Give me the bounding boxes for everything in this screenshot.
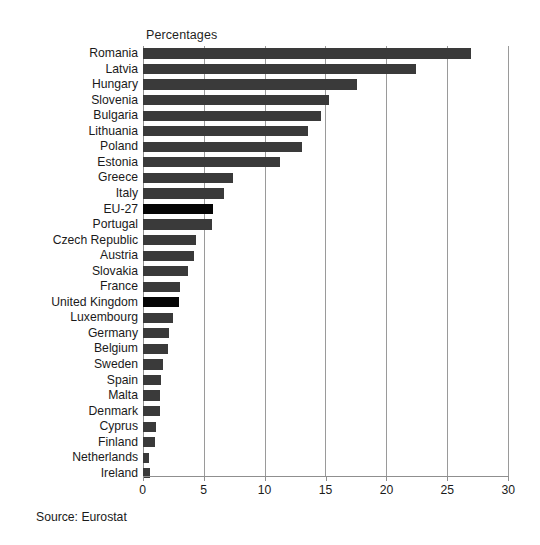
bar-luxembourg [143,313,173,323]
bar-row [143,62,509,78]
x-tick-label-30: 30 [502,483,516,497]
category-label-spain: Spain [0,373,138,389]
bar-row [143,155,509,171]
category-label-lithuania: Lithuania [0,124,138,140]
bar-poland [143,142,303,152]
category-axis-labels: RomaniaLatviaHungarySloveniaBulgariaLith… [0,46,138,476]
bar-sweden [143,359,164,369]
bar-row [143,419,509,435]
bar-row [143,186,509,202]
bar-italy [143,188,225,198]
x-tickmark-5 [204,476,205,481]
bar-finland [143,437,155,447]
bar-malta [143,390,160,400]
x-tickmark-15 [326,476,327,481]
bar-row [143,450,509,466]
category-label-eu-27: EU-27 [0,202,138,218]
x-tickmark-0 [143,476,144,481]
category-label-malta: Malta [0,388,138,404]
bar-hungary [143,79,357,89]
category-label-portugal: Portugal [0,217,138,233]
bar-united-kingdom [143,297,180,307]
category-label-greece: Greece [0,170,138,186]
bar-row [143,295,509,311]
bar-row [143,341,509,357]
chart-figure: Percentages RomaniaLatviaHungarySlovenia… [0,0,540,545]
category-label-luxembourg: Luxembourg [0,310,138,326]
bar-row [143,139,509,155]
plot-area [143,46,509,476]
category-label-cyprus: Cyprus [0,419,138,435]
x-tick-label-25: 25 [441,483,455,497]
bar-france [143,282,181,292]
bar-slovenia [143,95,329,105]
category-label-latvia: Latvia [0,62,138,78]
x-tick-label-10: 10 [258,483,272,497]
bar-row [143,170,509,186]
bar-row [143,202,509,218]
bar-row [143,233,509,249]
bar-czech-republic [143,235,197,245]
bar-bulgaria [143,111,321,121]
bar-netherlands [143,453,149,463]
bar-estonia [143,157,281,167]
bar-row [143,108,509,124]
category-label-netherlands: Netherlands [0,450,138,466]
bar-row [143,46,509,62]
bar-row [143,404,509,420]
category-label-slovenia: Slovenia [0,93,138,109]
category-label-slovakia: Slovakia [0,264,138,280]
gridline-30 [508,46,509,476]
bar-romania [143,48,471,58]
bar-row [143,435,509,451]
category-label-france: France [0,279,138,295]
bar-row [143,124,509,140]
x-tickmark-20 [386,476,387,481]
bar-denmark [143,406,160,416]
bar-austria [143,251,194,261]
x-axis-tick-labels: 051015202530 [0,483,540,503]
bar-row [143,373,509,389]
category-label-italy: Italy [0,186,138,202]
category-label-poland: Poland [0,139,138,155]
bar-belgium [143,344,169,354]
category-label-united-kingdom: United Kingdom [0,295,138,311]
bar-row [143,388,509,404]
source-note: Source: Eurostat [36,510,127,524]
bar-row [143,310,509,326]
x-tick-label-15: 15 [319,483,333,497]
chart-title: Percentages [146,28,217,42]
category-label-denmark: Denmark [0,404,138,420]
bar-row [143,326,509,342]
category-label-sweden: Sweden [0,357,138,373]
x-tickmark-25 [447,476,448,481]
bar-row [143,248,509,264]
bar-germany [143,328,170,338]
x-tick-label-20: 20 [380,483,394,497]
x-tickmark-30 [508,476,509,481]
category-label-bulgaria: Bulgaria [0,108,138,124]
bar-row [143,77,509,93]
bar-row [143,279,509,295]
category-label-romania: Romania [0,46,138,62]
bar-row [143,357,509,373]
bar-cyprus [143,422,156,432]
x-tickmark-10 [265,476,266,481]
category-label-czech-republic: Czech Republic [0,233,138,249]
bar-greece [143,173,233,183]
bar-series [143,46,509,476]
category-label-belgium: Belgium [0,341,138,357]
category-label-ireland: Ireland [0,466,138,482]
x-tick-label-5: 5 [200,483,207,497]
category-label-austria: Austria [0,248,138,264]
category-label-estonia: Estonia [0,155,138,171]
bar-latvia [143,64,416,74]
bar-row [143,217,509,233]
bar-spain [143,375,161,385]
bar-row [143,264,509,280]
bar-eu-27 [143,204,214,214]
category-label-hungary: Hungary [0,77,138,93]
bar-lithuania [143,126,309,136]
bar-row [143,93,509,109]
x-tick-label-0: 0 [139,483,146,497]
